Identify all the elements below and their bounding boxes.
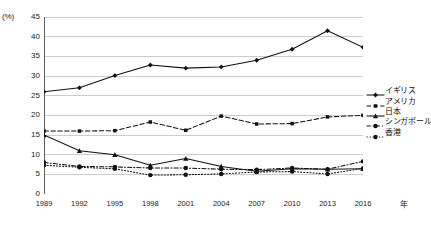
data-point xyxy=(361,45,363,50)
x-axis-tick-label: 2010 xyxy=(275,199,309,208)
y-axis-tick-label: 5 xyxy=(18,169,40,178)
y-axis-tick-label: 25 xyxy=(18,91,40,100)
data-point xyxy=(148,173,152,177)
data-point xyxy=(148,166,152,170)
data-point xyxy=(184,173,188,177)
data-point xyxy=(290,47,295,52)
x-axis-tick-label: 2013 xyxy=(311,199,345,208)
x-axis-tick-label: 1989 xyxy=(27,199,61,208)
legend-symbol-icon xyxy=(366,128,385,138)
y-axis-tick-label: 10 xyxy=(18,150,40,159)
data-point xyxy=(78,129,82,133)
x-axis-tick-label: 1998 xyxy=(133,199,167,208)
data-point xyxy=(184,166,188,170)
legend-symbol-icon xyxy=(366,86,385,96)
data-point xyxy=(112,73,117,78)
data-point xyxy=(148,63,153,68)
data-point xyxy=(219,167,223,171)
series-line xyxy=(44,31,363,92)
legend-item: 香港 xyxy=(366,128,430,138)
data-point xyxy=(290,122,294,126)
data-point xyxy=(219,65,224,70)
legend-label: イギリス xyxy=(385,86,416,96)
data-point xyxy=(219,114,223,118)
series-line xyxy=(44,135,363,171)
chart-legend: イギリスアメリカ日本シンガポール香港 xyxy=(366,86,430,138)
y-axis-tick-label: 40 xyxy=(18,32,40,41)
data-point xyxy=(113,167,117,171)
y-axis-tick-label: 20 xyxy=(18,110,40,119)
data-point xyxy=(44,129,46,133)
legend-label: シンガポール xyxy=(385,117,431,127)
x-axis-tick-label: 1995 xyxy=(98,199,132,208)
legend-symbol-icon xyxy=(366,107,385,117)
y-axis-tick-label: 15 xyxy=(18,130,40,139)
x-axis-unit-label: 年 xyxy=(400,198,408,209)
data-point xyxy=(113,129,117,133)
legend-label: アメリカ xyxy=(385,97,416,107)
y-axis-tick-label: 35 xyxy=(18,51,40,60)
chart-svg xyxy=(44,17,363,194)
legend-item: 日本 xyxy=(366,107,430,117)
x-axis-tick-label: 2007 xyxy=(240,199,274,208)
data-point xyxy=(254,170,258,174)
data-point xyxy=(254,58,259,63)
data-point xyxy=(326,115,330,119)
y-axis-tick-label: 45 xyxy=(18,12,40,21)
legend-label: 日本 xyxy=(385,107,400,117)
legend-item: イギリス xyxy=(366,86,430,96)
legend-item: アメリカ xyxy=(366,96,430,106)
y-axis-tick-label: 0 xyxy=(18,189,40,198)
data-point xyxy=(44,89,46,94)
data-point xyxy=(325,167,329,171)
plot-area xyxy=(44,17,363,194)
legend-label: 香港 xyxy=(385,128,400,138)
data-point xyxy=(183,66,188,71)
data-point xyxy=(325,28,330,33)
data-point xyxy=(290,169,294,173)
legend-item: シンガポール xyxy=(366,117,430,127)
y-axis-tick-label: 30 xyxy=(18,71,40,80)
data-point xyxy=(77,85,82,90)
data-point xyxy=(149,120,153,124)
legend-symbol-icon xyxy=(366,97,385,107)
data-point xyxy=(325,172,329,176)
data-point xyxy=(184,129,188,133)
x-axis-tick-label: 1992 xyxy=(62,199,96,208)
x-axis-tick-label: 2004 xyxy=(204,199,238,208)
data-point xyxy=(77,165,81,169)
data-point xyxy=(361,114,363,118)
x-axis-tick-label: 2001 xyxy=(169,199,203,208)
legend-symbol-icon xyxy=(366,117,385,127)
data-point xyxy=(255,122,259,126)
data-point xyxy=(44,163,46,167)
data-point xyxy=(219,172,223,176)
series-line xyxy=(44,115,363,131)
y-axis-unit-label: (%) xyxy=(2,12,14,21)
data-point xyxy=(361,159,363,163)
data-point xyxy=(183,156,188,161)
x-axis-tick-label: 2016 xyxy=(346,199,380,208)
